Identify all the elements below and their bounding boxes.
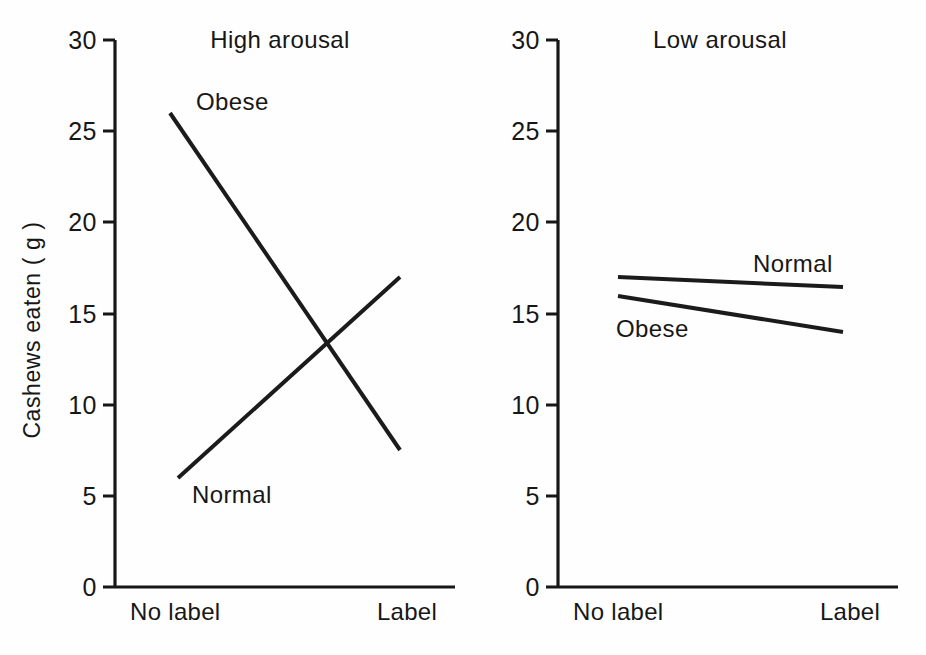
right-tick-label-25: 25 xyxy=(511,117,540,145)
right-tick-label-5: 5 xyxy=(526,482,540,510)
right-tick-label-20: 20 xyxy=(511,208,540,236)
right-tick-label-15: 15 xyxy=(511,300,540,328)
right-x-label-label: Label xyxy=(820,598,880,625)
left-tick-label-20: 20 xyxy=(68,208,97,236)
right-series-normal-line xyxy=(618,277,843,287)
panel-high-arousal: 0 5 10 15 20 25 30 High arousal Obese No… xyxy=(68,26,455,625)
right-series-label-normal: Normal xyxy=(753,250,833,277)
right-tick-label-0: 0 xyxy=(526,573,540,601)
right-tick-label-10: 10 xyxy=(511,391,540,419)
left-tick-label-0: 0 xyxy=(83,573,97,601)
left-tick-label-25: 25 xyxy=(68,117,97,145)
panel-title-high-arousal: High arousal xyxy=(210,26,350,53)
left-tick-label-5: 5 xyxy=(83,482,97,510)
left-x-label-label: Label xyxy=(377,598,437,625)
right-x-label-no-label: No label xyxy=(573,598,663,625)
right-series-label-obese: Obese xyxy=(616,315,689,342)
left-series-normal-line xyxy=(178,277,400,478)
left-series-label-normal: Normal xyxy=(192,481,272,508)
left-series-obese-line xyxy=(170,113,400,450)
line-chart-svg: Cashews eaten ( g ) 0 5 10 15 20 25 30 xyxy=(0,0,926,655)
left-x-label-no-label: No label xyxy=(130,598,220,625)
figure-canvas: Cashews eaten ( g ) 0 5 10 15 20 25 30 xyxy=(0,0,926,655)
panel-low-arousal: 0 5 10 15 20 25 30 Low arousal Normal Ob… xyxy=(511,26,898,625)
left-tick-label-15: 15 xyxy=(68,300,97,328)
left-tick-label-10: 10 xyxy=(68,391,97,419)
right-tick-label-30: 30 xyxy=(511,26,540,54)
left-series-label-obese: Obese xyxy=(196,88,269,115)
panel-title-low-arousal: Low arousal xyxy=(653,26,787,53)
y-axis-title: Cashews eaten ( g ) xyxy=(19,221,45,438)
left-tick-label-30: 30 xyxy=(68,26,97,54)
